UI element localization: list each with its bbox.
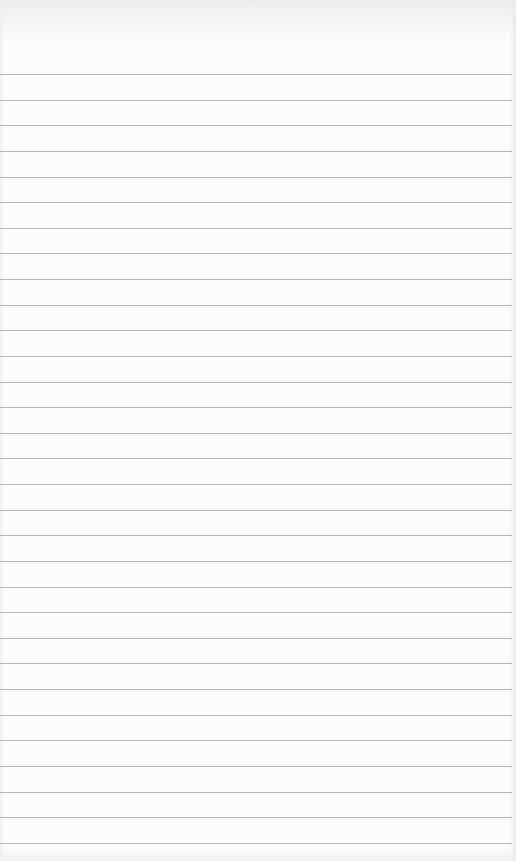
ruled-line	[0, 535, 512, 536]
ruled-line	[0, 356, 512, 357]
lined-paper-page	[0, 0, 516, 861]
ruled-line	[0, 612, 512, 613]
ruled-line	[0, 663, 512, 664]
ruled-line	[0, 484, 512, 485]
ruled-line	[0, 125, 512, 126]
ruled-line	[0, 817, 512, 818]
ruled-line	[0, 305, 512, 306]
ruled-line	[0, 177, 512, 178]
ruled-line	[0, 433, 512, 434]
ruled-line	[0, 740, 512, 741]
ruled-line	[0, 253, 512, 254]
ruled-line	[0, 715, 512, 716]
ruled-line	[0, 228, 512, 229]
ruled-line	[0, 689, 512, 690]
ruled-line	[0, 100, 512, 101]
ruled-line	[0, 638, 512, 639]
ruled-line	[0, 561, 512, 562]
ruled-line	[0, 151, 512, 152]
ruled-line	[0, 843, 512, 844]
ruled-line	[0, 74, 512, 75]
ruled-line	[0, 510, 512, 511]
ruled-line	[0, 458, 512, 459]
ruled-line	[0, 279, 512, 280]
ruled-line	[0, 766, 512, 767]
ruled-line	[0, 407, 512, 408]
ruled-line	[0, 587, 512, 588]
ruled-line	[0, 792, 512, 793]
ruled-line	[0, 330, 512, 331]
ruled-line	[0, 382, 512, 383]
ruled-line	[0, 202, 512, 203]
ruled-lines	[0, 0, 516, 861]
